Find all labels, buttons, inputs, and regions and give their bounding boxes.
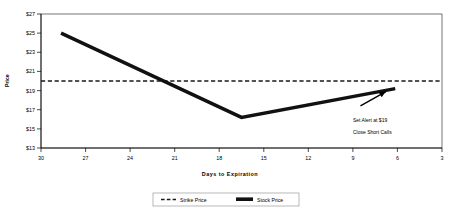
y-tick-label: $13 [26,145,35,151]
x-axis-ticks: 30 27 24 21 18 15 12 9 6 3 [38,148,444,161]
x-tick-label: 30 [38,155,44,161]
x-axis-title: Days to Expiration [202,171,258,177]
x-tick-label: 24 [127,155,133,161]
legend-label-strike-price: Strike Price [180,197,207,203]
x-tick-label: 18 [216,155,222,161]
series-stock-price [61,33,395,117]
y-tick-label: $17 [26,107,35,113]
line-chart: $13 $15 $17 $19 $21 $23 $25 $27 Price 30… [0,0,450,211]
legend-label-stock-price: Stock Price [257,197,283,203]
x-tick-label: 27 [83,155,89,161]
annotation-line-2: Close Short Calls [353,129,392,135]
y-axis-ticks: $13 $15 $17 $19 $21 $23 $25 $27 [26,11,41,151]
y-axis-title: Price [4,74,10,87]
annotation-line-1: Set Alert at $19 [353,117,387,123]
x-tick-label: 3 [441,155,444,161]
y-tick-label: $27 [26,11,35,17]
x-tick-label: 12 [305,155,311,161]
y-tick-label: $21 [26,68,35,74]
legend-swatch-stock-price [236,197,253,201]
y-tick-label: $25 [26,30,35,36]
x-tick-label: 21 [172,155,178,161]
x-tick-label: 6 [396,155,399,161]
y-tick-label: $19 [26,88,35,94]
chart-container: $13 $15 $17 $19 $21 $23 $25 $27 Price 30… [0,0,450,211]
x-tick-label: 15 [261,155,267,161]
chart-legend: Strike Price Stock Price [153,193,299,206]
x-tick-label: 9 [351,155,354,161]
y-tick-label: $15 [26,126,35,132]
y-tick-label: $23 [26,49,35,55]
